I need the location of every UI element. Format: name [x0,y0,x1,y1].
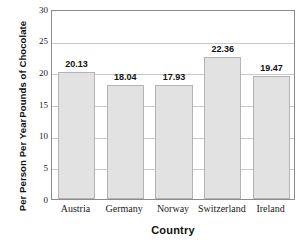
bar-slot: 17.93 [150,11,199,199]
bar-chart: Pounds of Chocolate Per Person Per Year … [0,0,307,245]
bar-slot: 22.36 [198,11,247,199]
y-tick-label: 20 [26,69,48,78]
bar-value-label: 22.36 [198,44,247,54]
y-tick-label: 25 [26,37,48,46]
y-tick-label: 30 [26,6,48,15]
bar[interactable] [107,85,144,199]
x-tick-label: Germany [100,203,149,215]
x-axis-tick-labels: AustriaGermanyNorwaySwitzerlandIreland [51,203,295,219]
y-tick-label: 5 [26,164,48,173]
x-tick-label: Ireland [246,203,295,215]
bar[interactable] [58,72,95,199]
bar-slot: 20.13 [52,11,101,199]
plot-area: 20.1318.0417.9322.3619.47 [51,10,295,200]
bar[interactable] [253,76,290,199]
y-tick-label: 0 [26,196,48,205]
bars-layer: 20.1318.0417.9322.3619.47 [52,11,294,199]
bar-value-label: 18.04 [101,72,150,82]
bar[interactable] [204,57,241,199]
y-tick-label: 15 [26,101,48,110]
bar-value-label: 20.13 [52,59,101,69]
bar-slot: 19.47 [247,11,296,199]
y-axis-tick-labels: 051015202530 [26,0,48,245]
bar-value-label: 17.93 [150,72,199,82]
bar-value-label: 19.47 [247,63,296,73]
x-axis-title: Country [51,224,295,237]
y-tick-label: 10 [26,132,48,141]
x-tick-label: Austria [51,203,100,215]
x-tick-label: Norway [149,203,198,215]
bar[interactable] [155,85,192,199]
x-tick-label: Switzerland [197,203,246,215]
bar-slot: 18.04 [101,11,150,199]
